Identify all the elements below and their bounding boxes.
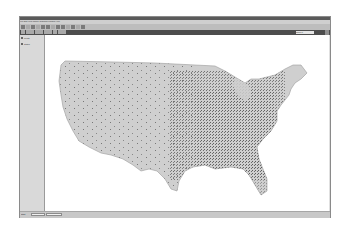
save-icon[interactable] xyxy=(21,25,25,29)
text-icon[interactable] xyxy=(58,30,62,34)
zoom-full-icon[interactable] xyxy=(46,25,50,29)
vertical-scrollbar[interactable] xyxy=(329,35,330,211)
select-feature-icon[interactable] xyxy=(71,25,75,29)
add-theme-icon[interactable] xyxy=(26,25,30,29)
scale-field[interactable]: Scale 1: xyxy=(296,31,314,34)
zoom-selected-icon[interactable] xyxy=(56,25,60,29)
status-text xyxy=(292,213,324,216)
table-of-contents: Points States xyxy=(20,35,45,211)
pan-icon[interactable] xyxy=(44,30,48,34)
toc-item-states[interactable]: States xyxy=(21,43,30,45)
scale-label: Scale 1: xyxy=(296,31,303,33)
measure-icon[interactable] xyxy=(48,30,52,34)
identify-icon[interactable] xyxy=(21,30,25,34)
vertex-icon[interactable] xyxy=(30,30,34,34)
legend-icon[interactable] xyxy=(36,25,40,29)
zoom-out-tool-icon[interactable] xyxy=(39,30,43,34)
status-bar: Start xyxy=(20,211,330,218)
start-button[interactable]: Start xyxy=(21,213,29,216)
menu-view[interactable]: View xyxy=(28,20,32,22)
zoom-active-icon[interactable] xyxy=(51,25,55,29)
zoom-out-icon[interactable] xyxy=(66,25,70,29)
menu-window[interactable]: Window xyxy=(48,20,55,22)
status-field-1[interactable] xyxy=(31,213,45,216)
properties-icon[interactable] xyxy=(31,25,35,29)
zoom-in-icon[interactable] xyxy=(61,25,65,29)
checkbox-icon[interactable] xyxy=(21,37,23,39)
menu-file[interactable]: File xyxy=(20,20,23,22)
us-map xyxy=(45,35,330,211)
menu-theme[interactable]: Theme xyxy=(33,20,39,22)
dot-density-layer xyxy=(45,35,285,211)
draw-icon[interactable] xyxy=(62,30,66,34)
toc-item-points[interactable]: Points xyxy=(21,37,30,39)
zoom-in-tool-icon[interactable] xyxy=(35,30,39,34)
pointer-icon[interactable] xyxy=(26,30,30,34)
hotlink-icon[interactable] xyxy=(53,30,57,34)
menu-edit[interactable]: Edit xyxy=(24,20,27,22)
status-field-2[interactable] xyxy=(46,213,62,216)
menu-graphics[interactable]: Graphics xyxy=(39,20,47,22)
clear-selection-icon[interactable] xyxy=(76,25,80,29)
map-view[interactable] xyxy=(45,35,330,211)
table-icon[interactable] xyxy=(41,25,45,29)
toc-item-label: Points xyxy=(24,37,30,39)
menu-help[interactable]: Help xyxy=(56,20,60,22)
help-icon[interactable] xyxy=(81,25,85,29)
app-window: File Edit View Theme Graphics Window Hel… xyxy=(19,16,331,218)
toc-item-label: States xyxy=(24,43,30,45)
checkbox-icon[interactable] xyxy=(21,43,23,45)
